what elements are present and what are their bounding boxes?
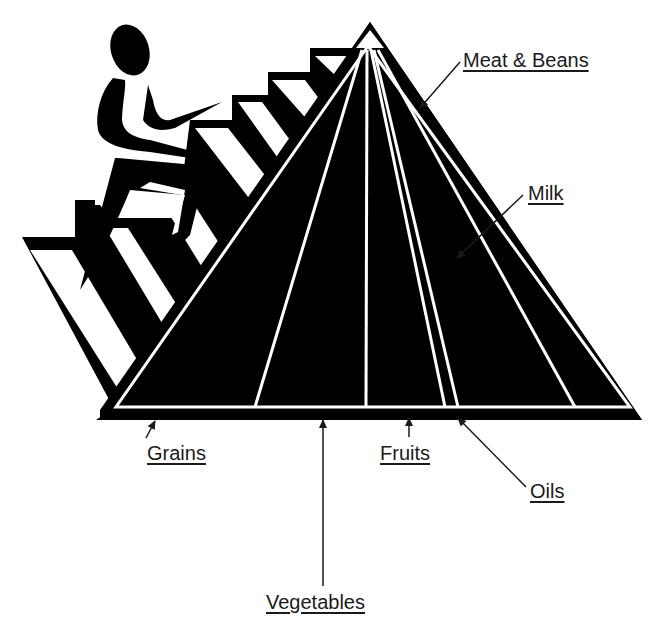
- food-pyramid-diagram: Meat & Beans Milk Grains Fruits Oils Veg…: [0, 0, 661, 635]
- label-vegetables: Vegetables: [266, 592, 365, 612]
- label-oils: Oils: [530, 481, 564, 501]
- label-fruits: Fruits: [380, 443, 430, 463]
- label-milk: Milk: [528, 183, 564, 203]
- arrow-grains: [146, 421, 155, 438]
- arrow-oils: [458, 418, 526, 487]
- label-grains: Grains: [147, 443, 206, 463]
- arrow-meat-beans: [420, 62, 460, 108]
- pyramid-illustration: [0, 0, 661, 635]
- label-meat-beans: Meat & Beans: [463, 50, 589, 70]
